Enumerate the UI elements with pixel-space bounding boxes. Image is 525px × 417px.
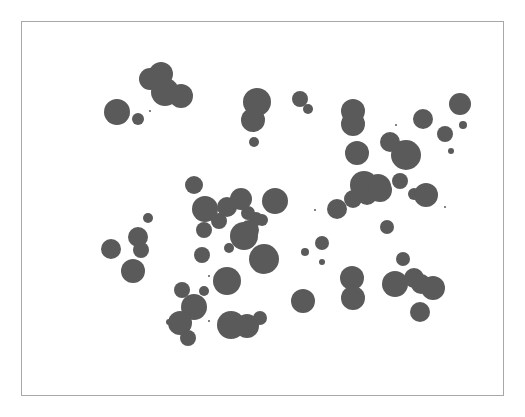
data-point [199, 286, 209, 296]
data-point [143, 213, 153, 223]
data-point [256, 214, 268, 226]
data-point [241, 108, 265, 132]
data-point [249, 137, 259, 147]
data-point [459, 121, 467, 129]
data-point [341, 286, 365, 310]
data-point [303, 104, 313, 114]
data-point [315, 236, 329, 250]
data-point [174, 282, 190, 298]
data-point [253, 311, 267, 325]
data-point [230, 222, 258, 250]
bubble-series [101, 62, 471, 346]
data-point [301, 248, 309, 256]
bubble-plot [0, 0, 525, 417]
data-point [249, 244, 279, 274]
data-point [319, 259, 325, 265]
data-point [345, 141, 369, 165]
data-point [169, 84, 193, 108]
data-point [101, 239, 121, 259]
data-point [132, 113, 144, 125]
data-point [444, 206, 446, 208]
data-point [213, 267, 241, 295]
data-point [396, 252, 410, 266]
data-point [380, 220, 394, 234]
data-point [291, 289, 315, 313]
data-point [395, 124, 397, 126]
data-point [327, 199, 347, 219]
data-point [314, 209, 316, 211]
data-point [292, 91, 308, 107]
data-point [262, 188, 288, 214]
data-point [391, 140, 421, 170]
data-point [449, 93, 471, 115]
data-point [224, 243, 234, 253]
data-point [166, 319, 172, 325]
data-point [368, 178, 392, 202]
data-point [180, 330, 196, 346]
data-point [448, 148, 454, 154]
data-point [208, 320, 210, 322]
data-point [341, 112, 365, 136]
data-point [185, 176, 203, 194]
data-point [149, 110, 151, 112]
data-point [421, 276, 445, 300]
data-point [196, 222, 212, 238]
data-point [410, 302, 430, 322]
data-point [133, 242, 149, 258]
data-point [104, 99, 130, 125]
data-point [437, 126, 453, 142]
data-point [121, 259, 145, 283]
data-point [414, 183, 438, 207]
data-point [382, 271, 408, 297]
data-point [413, 109, 433, 129]
data-point [208, 275, 210, 277]
data-point [194, 247, 210, 263]
data-point [392, 173, 408, 189]
